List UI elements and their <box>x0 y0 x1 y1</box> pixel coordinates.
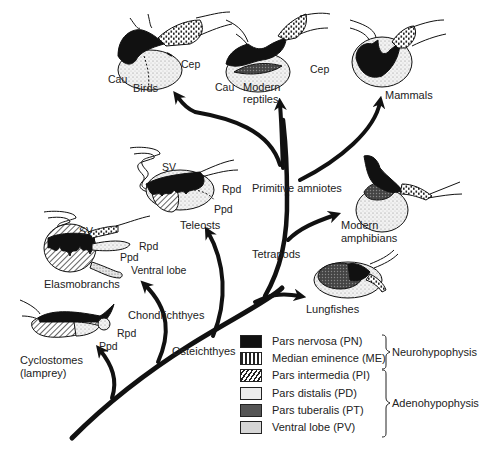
clade-label-chondrichthyes: Chondrichthyes <box>128 309 204 321</box>
part-label-ventral-lobe: Ventral lobe <box>131 264 186 276</box>
birds-pituitary-illustration <box>118 12 232 90</box>
taxon-label-elasmobranchs: Elasmobranchs <box>44 278 120 290</box>
pituitary-phylogeny-diagram: Birds Modern reptiles Mammals Teleosts M… <box>0 0 500 459</box>
taxon-label-lungfishes: Lungfishes <box>306 303 359 315</box>
swatch-dark-stipple-icon <box>240 404 262 417</box>
clade-label-primitive-amniotes: Primitive amniotes <box>252 182 342 194</box>
cyclostomes-pituitary-illustration <box>20 300 114 337</box>
legend-item-pars-distalis: Pars distalis (PD) <box>240 386 400 400</box>
mammals-pituitary-illustration <box>350 20 446 87</box>
part-label-cyclostomes-rpd: Rpd <box>117 327 136 339</box>
part-label-elasmobranchs-ppd: Ppd <box>120 251 139 263</box>
legend-item-median-eminence: Median eminence (ME) <box>240 351 400 365</box>
taxon-label-mammals: Mammals <box>385 89 433 101</box>
legend-group-adenohypophysis: Adenohypophysis <box>392 397 479 409</box>
taxon-label-cyclostomes-line2: (lamprey) <box>20 367 66 379</box>
part-label-elasmobranchs-sv: SV <box>79 225 93 237</box>
part-label-teleosts-rpd: Rpd <box>222 183 241 195</box>
legend-group-neurohypophysis: Neurohypophysis <box>392 346 477 358</box>
legend-item-ventral-lobe: Ventral lobe (PV) <box>240 420 400 434</box>
swatch-dotted-dashes-icon <box>240 352 262 365</box>
swatch-light-stipple-icon <box>240 387 262 400</box>
legend-item-pars-tuberalis: Pars tuberalis (PT) <box>240 403 400 417</box>
part-label-birds-cau: Cau <box>108 73 127 85</box>
part-label-elasmobranchs-rpd: Rpd <box>139 240 158 252</box>
taxon-label-reptiles-line2: reptiles <box>243 93 278 105</box>
part-label-birds-cep: Cep <box>181 58 200 70</box>
taxon-label-amphibians-line2: amphibians <box>341 232 397 244</box>
taxon-label-reptiles-line1: Modern <box>243 81 280 93</box>
taxon-label-teleosts: Teleosts <box>180 219 220 231</box>
clade-label-tetrapods: Tetrapods <box>252 248 300 260</box>
part-label-reptiles-cep: Cep <box>310 63 329 75</box>
swatch-diagonal-hatch-icon <box>240 369 262 382</box>
lungfishes-pituitary-illustration <box>314 250 398 298</box>
swatch-medium-stipple-icon <box>240 421 262 434</box>
clade-label-osteichthyes: Osteichthyes <box>172 345 236 357</box>
taxon-label-birds: Birds <box>133 82 158 94</box>
part-label-cyclostomes-ppd: Ppd <box>99 340 118 352</box>
legend-item-pars-nervosa: Pars nervosa (PN) <box>240 334 400 348</box>
swatch-solid-black-icon <box>240 335 262 348</box>
taxon-label-amphibians-line1: Modern <box>341 219 378 231</box>
part-label-reptiles-cau: Cau <box>215 81 234 93</box>
part-label-teleosts-sv: SV <box>162 161 176 173</box>
taxon-label-cyclostomes-line1: Cyclostomes <box>20 354 83 366</box>
part-label-teleosts-ppd: Ppd <box>214 203 233 215</box>
legend-item-pars-intermedia: Pars intermedia (PI) <box>240 368 400 382</box>
